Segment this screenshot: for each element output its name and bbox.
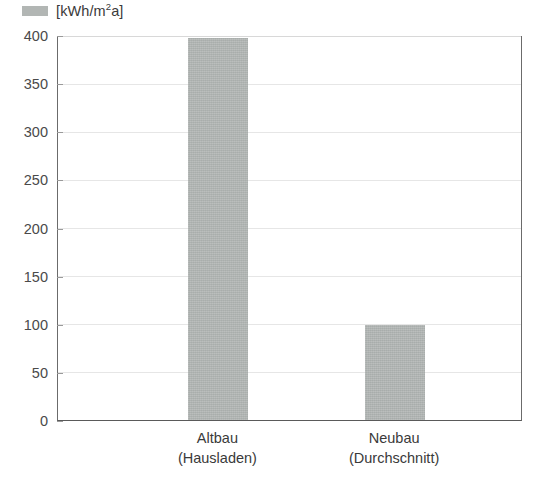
y-axis-tick-label: 150 xyxy=(2,269,48,285)
y-axis-tick xyxy=(57,229,63,230)
y-axis-tick xyxy=(57,132,63,133)
y-axis-labels: 050100150200250300350400 xyxy=(0,36,48,421)
chart-legend: [kWh/m2a] xyxy=(22,2,123,20)
y-axis-tick-label: 100 xyxy=(2,317,48,333)
x-axis-label-line: (Durchschnitt) xyxy=(349,448,439,468)
y-axis-tick-label: 50 xyxy=(2,365,48,381)
y-axis-tick-label: 350 xyxy=(2,76,48,92)
y-axis-tick xyxy=(57,373,63,374)
y-axis-tick xyxy=(57,36,63,37)
gridline xyxy=(58,36,521,37)
x-axis-category-label: Neubau(Durchschnitt) xyxy=(349,428,439,468)
legend-unit-prefix: [kWh/m xyxy=(56,3,106,19)
gridline xyxy=(58,180,521,181)
y-axis-tick xyxy=(57,325,63,326)
y-axis-tick-label: 0 xyxy=(2,413,48,429)
y-axis-tick-label: 300 xyxy=(2,124,48,140)
gridline xyxy=(58,84,521,85)
y-axis-tick xyxy=(57,180,63,181)
gridline xyxy=(58,228,521,229)
gridline xyxy=(58,324,521,325)
legend-label: [kWh/m2a] xyxy=(56,3,123,19)
bar-chart: [kWh/m2a] 050100150200250300350400 Altba… xyxy=(0,0,535,488)
gridline xyxy=(58,132,521,133)
x-axis-label-line: (Hausladen) xyxy=(178,448,257,468)
plot-area xyxy=(57,36,522,421)
bar xyxy=(365,325,425,420)
y-axis-tick xyxy=(57,84,63,85)
bar xyxy=(188,38,248,420)
gridline xyxy=(58,372,521,373)
y-axis-tick xyxy=(57,421,63,422)
x-axis-category-label: Altbau(Hausladen) xyxy=(178,428,257,468)
x-axis-labels: Altbau(Hausladen)Neubau(Durchschnitt) xyxy=(57,428,522,486)
y-axis-tick-label: 400 xyxy=(2,28,48,44)
y-axis-tick-label: 200 xyxy=(2,221,48,237)
gridline xyxy=(58,276,521,277)
x-axis-label-line: Neubau xyxy=(349,428,439,448)
y-axis-tick-label: 250 xyxy=(2,172,48,188)
x-axis-label-line: Altbau xyxy=(178,428,257,448)
y-axis-tick xyxy=(57,277,63,278)
legend-unit-suffix: a] xyxy=(111,3,123,19)
legend-swatch-icon xyxy=(22,6,48,16)
